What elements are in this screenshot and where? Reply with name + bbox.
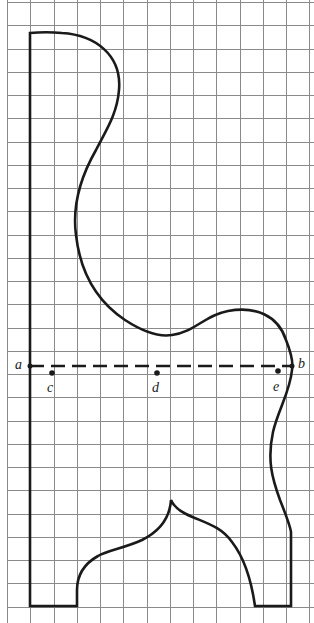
- point-d: [154, 370, 160, 376]
- point-b: [290, 364, 295, 369]
- point-a: [28, 364, 33, 369]
- label-b: b: [298, 357, 305, 371]
- label-a: a: [15, 358, 22, 372]
- label-d: d: [152, 381, 159, 395]
- point-e: [275, 368, 281, 374]
- label-c: c: [47, 381, 53, 395]
- point-c: [49, 370, 55, 376]
- diagram-canvas: [0, 0, 314, 623]
- grid: [7, 0, 314, 623]
- label-e: e: [273, 380, 279, 394]
